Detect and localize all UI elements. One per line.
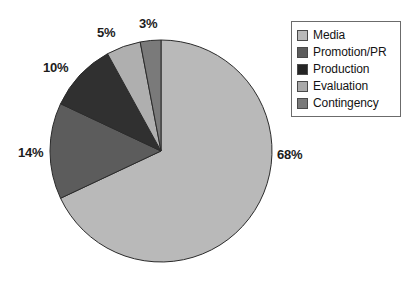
slice-value-label-media: 68% [277, 147, 302, 162]
legend-label-production: Production [313, 63, 369, 76]
legend-item-production[interactable]: Production [297, 61, 396, 77]
legend-swatch-evaluation-icon [297, 81, 308, 92]
slice-value-label-promotion: 14% [18, 145, 43, 160]
legend-item-media[interactable]: Media [297, 27, 396, 43]
legend-label-promotion-pr: Promotion/PR [313, 46, 387, 59]
pie-chart: 68% 14% 10% 5% 3% Media Promotion/PR Pro… [0, 0, 411, 282]
legend-item-contingency[interactable]: Contingency [297, 95, 396, 111]
legend-swatch-media-icon [297, 30, 308, 41]
legend-swatch-promotion-pr-icon [297, 47, 308, 58]
legend-swatch-contingency-icon [297, 98, 308, 109]
legend-label-media: Media [313, 29, 345, 42]
legend-label-contingency: Contingency [313, 97, 379, 110]
legend-item-evaluation[interactable]: Evaluation [297, 78, 396, 94]
slice-value-label-contingency: 3% [139, 16, 157, 31]
legend-item-promotion-pr[interactable]: Promotion/PR [297, 44, 396, 60]
legend-swatch-production-icon [297, 64, 308, 75]
slice-value-label-production: 10% [43, 60, 68, 75]
legend-label-evaluation: Evaluation [313, 80, 368, 93]
chart-legend: Media Promotion/PR Production Evaluation… [291, 21, 401, 117]
pie-slice-group [50, 40, 272, 262]
slice-value-label-evaluation: 5% [97, 25, 115, 40]
